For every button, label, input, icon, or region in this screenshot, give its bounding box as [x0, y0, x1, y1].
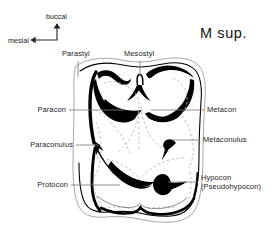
orientation-compass: [30, 23, 60, 43]
hypocone-cusp: [153, 174, 187, 195]
metaconule-cusp: [162, 139, 177, 160]
metacone-loph: [146, 65, 194, 121]
label-paraconulus: Paraconulus: [0, 141, 73, 150]
compass-arms: [32, 24, 57, 40]
compass-label-buccal: buccal: [46, 12, 67, 21]
inner-basal-contour: [97, 196, 187, 209]
label-paracon: Paracon: [0, 106, 66, 115]
tooth-diagram-figure: M sup. buccal mesial Parastyl Mesostyl P…: [0, 0, 275, 243]
label-mesostyl: Mesostyl: [124, 50, 154, 59]
compass-label-mesial: mesial: [8, 36, 29, 45]
label-metaconulus: Metaconulus: [203, 136, 247, 145]
label-hypocon-alt: (Pseudohypocon): [201, 183, 261, 192]
label-metacon: Metacon: [207, 106, 236, 115]
label-hypocon-group: Hypocon (Pseudohypocon): [201, 174, 261, 191]
mesostyle-stem: [127, 85, 151, 101]
label-protocon: Protocon: [0, 181, 68, 190]
interior-dashed-contours: [93, 78, 193, 210]
mesostyle-notch: [137, 74, 143, 85]
figure-title: M sup.: [200, 25, 247, 41]
label-parastyl: Parastyl: [62, 50, 90, 59]
buccal-arrowhead: [54, 23, 61, 28]
mesial-arrowhead: [30, 37, 35, 44]
